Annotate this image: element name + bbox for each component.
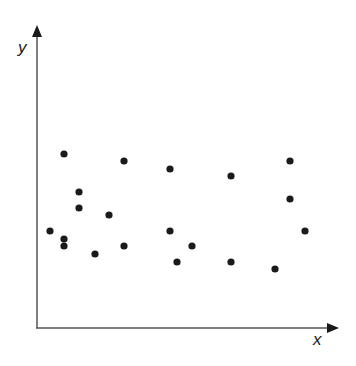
data-point [188, 242, 195, 249]
data-point [91, 250, 98, 257]
data-point [46, 227, 53, 234]
data-point [286, 195, 293, 202]
y-axis [32, 25, 42, 328]
data-point [75, 204, 82, 211]
data-point [301, 227, 308, 234]
x-axis-arrow-icon [327, 323, 339, 333]
data-point [286, 157, 293, 164]
y-axis-arrow-icon [32, 25, 42, 37]
data-point [173, 258, 180, 265]
data-point [60, 235, 67, 242]
scatter-plot [0, 0, 356, 366]
data-point [227, 258, 234, 265]
y-axis-label: y [18, 38, 27, 58]
data-point [120, 242, 127, 249]
data-point [227, 172, 234, 179]
data-point [60, 150, 67, 157]
data-point [60, 242, 67, 249]
x-axis [36, 323, 339, 333]
data-point [120, 157, 127, 164]
data-point [75, 188, 82, 195]
data-point [166, 165, 173, 172]
data-point [271, 265, 278, 272]
data-points [46, 150, 308, 272]
data-point [105, 211, 112, 218]
data-point [166, 227, 173, 234]
x-axis-label: x [313, 330, 322, 350]
